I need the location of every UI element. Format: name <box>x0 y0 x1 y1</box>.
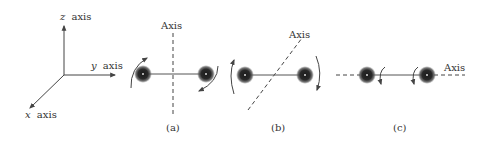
panel-caption: (a) <box>166 122 180 133</box>
axis-label: Axis <box>443 62 465 73</box>
z-axis-label: z axis <box>59 11 91 22</box>
mass-right-center <box>205 73 207 75</box>
panel-a: Axis (a) <box>131 20 218 133</box>
coordinate-axes: z axis y axis x axis <box>25 11 123 120</box>
panel-caption: (c) <box>393 122 407 133</box>
y-axis-label: y axis <box>90 60 123 71</box>
axis-label: Axis <box>160 20 182 31</box>
rotation-arrow-left <box>231 60 234 94</box>
axis-label: Axis <box>288 29 310 40</box>
mass-left-center <box>244 74 246 76</box>
mass-left-center <box>142 73 144 75</box>
mass-left-center <box>366 74 368 76</box>
x-axis-label: x axis <box>25 109 57 120</box>
mass-right-center <box>426 74 428 76</box>
rotation-axis-line <box>248 38 302 110</box>
x-axis-line <box>30 75 64 108</box>
panel-caption: (b) <box>271 122 285 133</box>
dumbbell-rotation-figure: z axis y axis x axis Axis (a) Axis <box>0 0 485 147</box>
rotation-arrow-right <box>316 56 320 90</box>
panel-c: Axis (c) <box>336 62 465 133</box>
panel-b: Axis (b) <box>231 29 320 133</box>
mass-right-center <box>304 74 306 76</box>
